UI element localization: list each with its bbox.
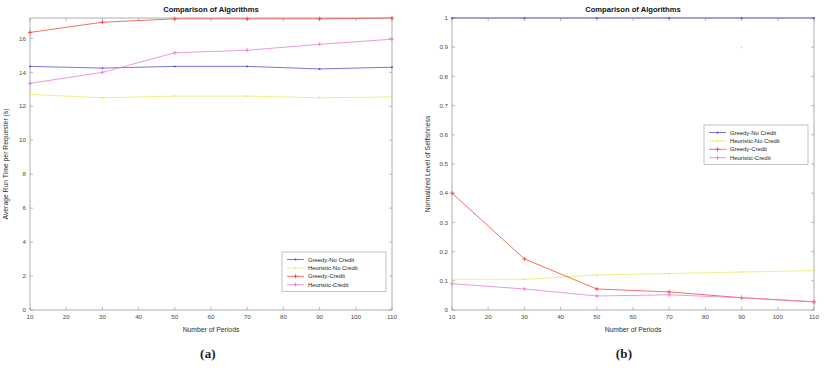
y-tick-label-0.6: 0.6 — [439, 131, 448, 138]
series-marker-1-5 — [391, 96, 393, 98]
subfigure-caption-b: (b) — [616, 346, 633, 362]
legend-label-1: Heuristic-No Credit — [730, 138, 780, 144]
chart-panel-b: Comparison of Algorithms1020304050607080… — [416, 0, 832, 340]
series-line-1 — [452, 271, 814, 280]
series-heuristic-no-credit — [451, 270, 815, 281]
series-marker-3-3 — [245, 48, 249, 52]
series-marker-2-5 — [390, 16, 394, 20]
legend-label-1: Heuristic-No Credit — [308, 265, 358, 271]
x-tick-label-100: 100 — [351, 313, 362, 320]
x-tick-label-50: 50 — [171, 313, 178, 320]
chart-panel-a: Comparison of Algorithms1020304050607080… — [0, 0, 416, 340]
series-marker-1-2 — [596, 274, 598, 276]
y-tick-label-0.4: 0.4 — [439, 189, 448, 196]
subfigure-caption-a: (a) — [200, 346, 216, 362]
chart-a-canvas: Comparison of Algorithms1020304050607080… — [0, 0, 416, 340]
y-tick-label-8: 8 — [23, 170, 27, 177]
legend-label-3: Heuristic-Credit — [308, 282, 349, 288]
legend-marker-1 — [295, 267, 297, 269]
y-tick-label-1: 1 — [445, 14, 449, 21]
series-line-2 — [452, 193, 814, 302]
series-line-0 — [30, 66, 392, 69]
series-marker-2-3 — [245, 17, 249, 21]
series-marker-0-5 — [813, 17, 815, 19]
x-tick-label-110: 110 — [387, 313, 397, 320]
y-tick-label-0.2: 0.2 — [439, 248, 448, 255]
y-tick-label-16: 16 — [19, 35, 26, 42]
x-tick-label-60: 60 — [208, 313, 215, 320]
series-line-3 — [452, 284, 814, 302]
figure-caption-row: (a) (b) — [0, 340, 832, 379]
x-tick-label-20: 20 — [63, 313, 70, 320]
x-tick-label-50: 50 — [593, 313, 600, 320]
y-tick-label-10: 10 — [19, 136, 26, 143]
series-marker-0-4 — [319, 68, 321, 70]
series-marker-3-3 — [667, 293, 671, 297]
legend-marker-0 — [295, 259, 297, 261]
x-tick-label-70: 70 — [244, 313, 251, 320]
y-tick-label-0: 0 — [23, 306, 27, 313]
x-tick-label-110: 110 — [809, 313, 819, 320]
series-marker-1-5 — [813, 270, 815, 272]
series-marker-3-5 — [812, 300, 816, 304]
y-tick-label-14: 14 — [19, 69, 26, 76]
series-greedy-credit — [28, 16, 394, 35]
legend-marker-1 — [717, 140, 719, 142]
series-line-3 — [30, 39, 392, 83]
y-tick-label-4: 4 — [23, 238, 27, 245]
chart-title: Comparison of Algorithms — [163, 5, 259, 14]
x-axis-title: Number of Periods — [183, 326, 240, 333]
series-marker-2-2 — [595, 287, 599, 291]
legend-label-2: Greedy-Credit — [308, 273, 345, 279]
y-tick-label-0: 0 — [445, 306, 449, 313]
series-marker-1-4 — [741, 271, 743, 273]
caption-cell-b: (b) — [416, 340, 832, 379]
series-heuristic-credit — [450, 282, 816, 304]
x-tick-label-80: 80 — [280, 313, 287, 320]
series-line-1 — [30, 94, 392, 97]
y-tick-label-2: 2 — [23, 272, 27, 279]
x-tick-label-10: 10 — [449, 313, 456, 320]
y-tick-label-0.9: 0.9 — [439, 43, 448, 50]
y-tick-label-12: 12 — [19, 102, 26, 109]
chart-legend: Greedy-No CreditHeuristic-No CreditGreed… — [704, 125, 808, 165]
series-marker-3-4 — [740, 296, 744, 300]
x-tick-label-40: 40 — [135, 313, 142, 320]
series-marker-0-3 — [246, 65, 248, 67]
series-marker-0-4 — [741, 17, 743, 19]
heuristic-no-credit-outlier — [741, 46, 743, 48]
series-marker-2-4 — [318, 17, 322, 21]
y-tick-label-0.3: 0.3 — [439, 219, 448, 226]
series-marker-3-2 — [173, 51, 177, 55]
series-marker-1-0 — [451, 278, 453, 280]
y-axis-title: Average Run Time per Requester (s) — [2, 109, 10, 220]
y-tick-label-0.1: 0.1 — [439, 277, 448, 284]
series-marker-3-0 — [28, 81, 32, 85]
series-marker-0-0 — [451, 17, 453, 19]
series-marker-0-0 — [29, 65, 31, 67]
series-marker-0-1 — [101, 67, 103, 69]
series-greedy-no-credit — [29, 65, 393, 69]
legend-label-0: Greedy-No Credit — [308, 257, 355, 263]
y-tick-label-0.8: 0.8 — [439, 73, 448, 80]
legend-label-2: Greedy-Credit — [730, 146, 767, 152]
series-marker-3-2 — [595, 294, 599, 298]
series-marker-1-4 — [319, 97, 321, 99]
caption-cell-a: (a) — [0, 340, 416, 379]
series-marker-0-5 — [391, 66, 393, 68]
series-marker-0-3 — [668, 17, 670, 19]
figure-panels-row: Comparison of Algorithms1020304050607080… — [0, 0, 832, 340]
x-tick-label-70: 70 — [666, 313, 673, 320]
x-tick-label-100: 100 — [773, 313, 784, 320]
x-tick-label-30: 30 — [99, 313, 106, 320]
chart-legend: Greedy-No CreditHeuristic-No CreditGreed… — [282, 252, 386, 292]
series-marker-3-4 — [318, 42, 322, 46]
x-tick-label-60: 60 — [630, 313, 637, 320]
series-marker-3-5 — [390, 37, 394, 41]
chart-title: Comparison of Algorithms — [585, 5, 681, 14]
series-marker-3-0 — [450, 282, 454, 286]
series-marker-1-2 — [174, 95, 176, 97]
series-marker-0-2 — [596, 17, 598, 19]
legend-marker-0 — [717, 132, 719, 134]
x-axis-title: Number of Periods — [605, 326, 662, 333]
